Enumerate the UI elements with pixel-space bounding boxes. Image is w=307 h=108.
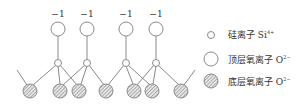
large-circle-icon: [200, 50, 222, 68]
silicon-ion: [153, 60, 160, 67]
legend: 硅离子 Si4+ 顶层氧离子 O2− 底层氧离子 O2−: [200, 0, 307, 108]
bottom-oxygen-ion: [174, 84, 188, 98]
silicon-ions: [55, 60, 160, 67]
legend-label: 顶层氧离子 O2−: [228, 53, 291, 66]
legend-label: 硅离子 Si4+: [228, 28, 274, 41]
bottom-oxygen-ions: [23, 84, 188, 98]
charge-label: −1: [119, 9, 132, 19]
charge-label: −1: [80, 9, 93, 19]
charge-labels: −1 −1 −1 −1: [51, 9, 162, 19]
top-oxygen-ions: [51, 22, 163, 36]
legend-label: 底层氧离子 O2−: [228, 75, 291, 88]
top-oxygen-ion: [80, 22, 94, 36]
top-oxygen-ion: [51, 22, 65, 36]
silicon-ion: [55, 60, 62, 67]
bottom-oxygen-ion: [127, 84, 141, 98]
bottom-oxygen-ion: [53, 84, 67, 98]
bonds: [17, 36, 195, 85]
bottom-oxygen-ion: [72, 84, 86, 98]
bottom-oxygen-ion: [23, 84, 37, 98]
legend-item-top-oxygen: 顶层氧离子 O2−: [200, 50, 291, 68]
silicon-ion: [84, 60, 91, 67]
bottom-oxygen-ion: [99, 84, 113, 98]
bottom-oxygen-ion: [145, 84, 159, 98]
legend-item-bottom-oxygen: 底层氧离子 O2−: [200, 72, 291, 90]
small-circle-icon: [200, 30, 222, 40]
charge-label: −1: [149, 9, 162, 19]
top-oxygen-ion: [149, 22, 163, 36]
hatched-circle-icon: [200, 72, 222, 90]
legend-item-silicon: 硅离子 Si4+: [200, 28, 274, 41]
silicate-layer-diagram: −1 −1 −1 −1: [0, 0, 200, 108]
silicon-ion: [123, 60, 130, 67]
top-oxygen-ion: [119, 22, 133, 36]
charge-label: −1: [51, 9, 64, 19]
